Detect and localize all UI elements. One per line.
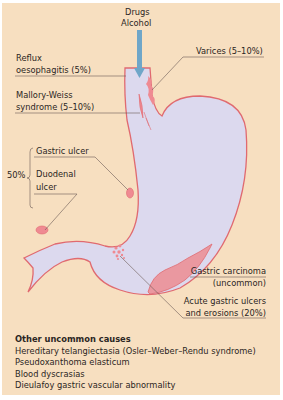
- leader-varices: [152, 57, 264, 90]
- label-duodenal-1: Duodenal: [36, 169, 76, 180]
- label-carcinoma-2: (uncommon): [213, 278, 266, 289]
- label-acute-2: and erosions (20%): [186, 308, 267, 319]
- label-varices: Varices (5–10%): [196, 46, 263, 57]
- drugs-alcohol-arrow-shaft: [137, 30, 142, 70]
- brace-50-percent: [27, 148, 33, 208]
- label-carcinoma-1: Gastric carcinoma: [191, 266, 266, 277]
- duodenal-ulcer-lesion: [36, 226, 48, 234]
- label-brace-percent: 50%: [7, 170, 25, 181]
- label-mallory-1: Mallory-Weiss: [16, 90, 73, 101]
- other-cause-item: Pseudoxanthoma elasticum: [15, 357, 256, 369]
- leader-duodenal: [34, 194, 77, 230]
- label-duodenal-2: ulcer: [36, 182, 57, 193]
- arrow-label-drugs: Drugs: [125, 7, 150, 18]
- label-mallory-2: syndrome (5–10%): [16, 102, 94, 113]
- other-causes-list: Other uncommon causes Hereditary telangi…: [15, 334, 256, 392]
- other-cause-item: Blood dyscrasias: [15, 369, 256, 381]
- arrow-label-alcohol: Alcohol: [121, 18, 151, 29]
- label-gastric-ulcer: Gastric ulcer: [36, 146, 89, 157]
- label-acute-1: Acute gastric ulcers: [184, 296, 266, 307]
- other-cause-item: Hereditary telangiectasia (Osler–Weber–R…: [15, 346, 256, 358]
- other-cause-item: Dieulafoy gastric vascular abnormality: [15, 380, 256, 392]
- label-reflux-1: Reflux: [16, 53, 42, 64]
- label-reflux-2: oesophagitis (5%): [16, 65, 91, 76]
- other-causes-heading: Other uncommon causes: [15, 334, 256, 346]
